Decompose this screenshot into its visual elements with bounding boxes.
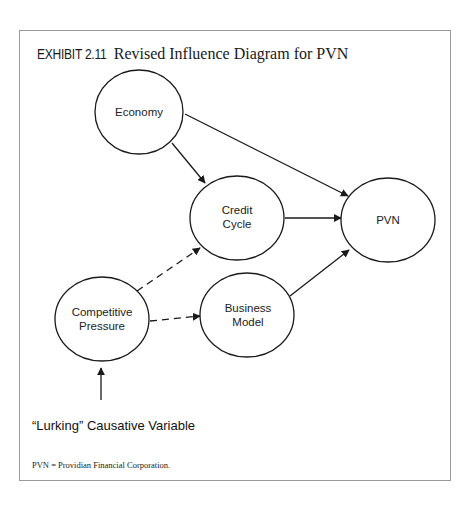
- node-credit-cycle-line1: Credit: [222, 204, 253, 216]
- node-pvn-label: PVN: [376, 214, 400, 226]
- node-credit-cycle-line2: Cycle: [223, 218, 252, 230]
- footnote: PVN = Providian Financial Corporation.: [32, 460, 170, 470]
- edge-competitive-pressure-to-business-model: [150, 316, 200, 321]
- edge-business-model-to-pvn: [290, 250, 349, 296]
- node-business-model-line2: Model: [232, 316, 263, 328]
- node-credit-cycle: Credit Cycle: [190, 176, 284, 260]
- node-business-model: Business Model: [200, 273, 294, 357]
- node-pvn: PVN: [341, 178, 435, 262]
- edge-competitive-pressure-to-credit-cycle: [137, 248, 200, 291]
- lurking-variable-label: “Lurking” Causative Variable: [32, 418, 195, 433]
- node-competitive-pressure-line2: Pressure: [79, 320, 125, 332]
- node-economy: Economy: [95, 70, 183, 154]
- node-competitive-pressure-line1: Competitive: [72, 306, 133, 318]
- node-business-model-line1: Business: [225, 302, 272, 314]
- node-economy-label: Economy: [115, 106, 163, 118]
- edge-economy-to-credit-cycle: [172, 143, 205, 183]
- node-competitive-pressure: Competitive Pressure: [55, 277, 149, 361]
